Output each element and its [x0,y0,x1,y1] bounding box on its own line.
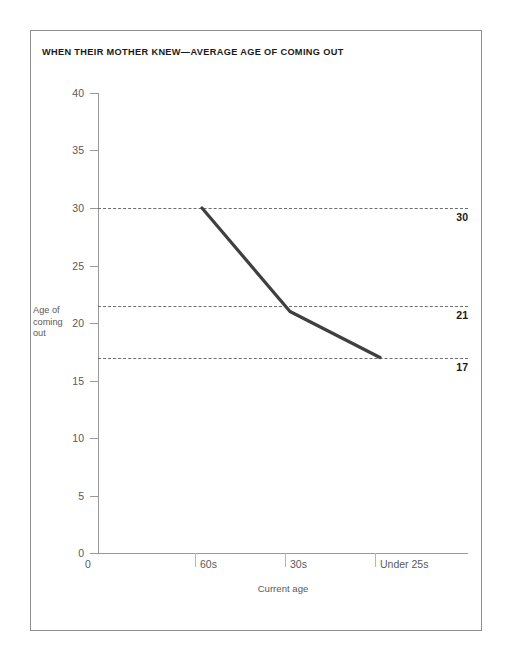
y-tick-label-40: 40 [48,87,84,99]
y-axis-title-line-3: out [33,328,79,340]
y-tick-40 [90,93,98,94]
x-tick-30s [285,553,286,567]
guide-line-30 [98,208,468,209]
y-tick-0 [90,553,98,554]
y-axis-title-line-2: coming [33,317,79,329]
y-tick-label-35: 35 [48,144,84,156]
x-tick-under-25s [375,553,376,567]
guide-line-17 [98,358,468,359]
value-label-30: 30 [418,211,468,223]
y-tick-label-15: 15 [48,375,84,387]
chart-figure: WHEN THEIR MOTHER KNEW—AVERAGE AGE OF CO… [0,0,509,662]
y-tick-label-30: 30 [48,202,84,214]
chart-title: WHEN THEIR MOTHER KNEW—AVERAGE AGE OF CO… [42,47,344,57]
y-tick-30 [90,208,98,209]
y-tick-label-5: 5 [48,490,84,502]
y-axis-line [98,93,99,554]
x-axis-title: Current age [98,583,468,594]
y-tick-5 [90,496,98,497]
x-origin-label: 0 [85,558,91,570]
value-label-17: 17 [418,361,468,373]
y-tick-15 [90,381,98,382]
y-tick-label-0: 0 [48,547,84,559]
x-tick-label-60s: 60s [200,558,217,570]
x-axis-line [98,553,468,554]
value-label-21: 21 [418,309,468,321]
guide-line-21 [98,306,468,307]
x-tick-label-under-25s: Under 25s [380,558,428,570]
x-tick-60s [195,553,196,567]
x-tick-label-30s: 30s [290,558,307,570]
y-tick-25 [90,266,98,267]
y-tick-35 [90,150,98,151]
y-axis-title-line-1: Age of [33,305,79,317]
y-tick-label-10: 10 [48,432,84,444]
y-tick-10 [90,438,98,439]
y-axis-title: Age of coming out [33,305,79,340]
y-tick-20 [90,323,98,324]
y-tick-label-25: 25 [48,260,84,272]
